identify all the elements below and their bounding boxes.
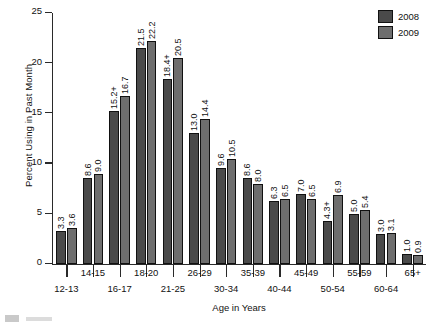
bar-value-label: 3.0: [375, 219, 385, 232]
bar-2009-60-64: 3.1: [387, 233, 397, 264]
bar-value-label: 21.5: [135, 29, 145, 47]
y-tick: 10: [45, 162, 52, 163]
bar-2008-14-15: 8.6: [83, 178, 93, 264]
bar-2009-14-15: 9.0: [94, 174, 104, 264]
bar-2009-35-39: 8.0: [253, 184, 263, 264]
x-tick: [173, 264, 174, 277]
y-tick-label: 15: [31, 106, 42, 117]
legend-swatch-2008: [378, 10, 393, 23]
bar-value-label: 7.0: [295, 179, 305, 192]
bar-value-label: 15.2+: [109, 87, 119, 110]
bar-2009-45-49: 6.5: [307, 199, 317, 264]
bar-2009-30-34: 10.5: [227, 159, 237, 264]
bar-value-label: 13.0: [189, 114, 199, 132]
y-tick-label: 5: [37, 206, 42, 217]
y-tick-label: 0: [37, 256, 42, 267]
bar-2008-55-59: 5.0: [349, 214, 359, 264]
x-axis-label-40-44: 40-44: [267, 283, 291, 294]
x-axis-label-18-20: 18-20: [134, 267, 158, 278]
bar-group: 7.06.5: [296, 13, 316, 264]
bar-group: 1.00.9: [402, 13, 422, 264]
bar-value-label: 3.1: [386, 218, 396, 231]
bar-group: 3.03.1: [376, 13, 396, 264]
bar-2008-30-34: 9.6: [216, 168, 226, 264]
bar-2008-45-49: 7.0: [296, 194, 306, 264]
bar-value-label: 14.4: [199, 100, 209, 118]
x-axis-label-12-13: 12-13: [54, 283, 78, 294]
bar-group: 18.4+20.5: [163, 13, 183, 264]
bar-2009-18-20: 22.2: [147, 41, 157, 264]
bar-group: 8.68.0: [243, 13, 263, 264]
bar-2008-16-17: 15.2+: [109, 111, 119, 264]
plot-area: 0510152025 3.33.68.69.015.2+16.721.522.2…: [52, 13, 426, 264]
x-axis-label-16-17: 16-17: [107, 283, 131, 294]
bar-value-label: 8.6: [242, 163, 252, 176]
bar-groups: 3.33.68.69.015.2+16.721.522.218.4+20.513…: [53, 13, 426, 264]
bar-2009-65+: 0.9: [413, 255, 423, 264]
x-axis-label-30-34: 30-34: [214, 283, 238, 294]
x-axis-label-21-25: 21-25: [161, 283, 185, 294]
y-tick: 15: [45, 112, 52, 113]
bar-value-label: 18.4+: [162, 54, 172, 77]
bar-2008-35-39: 8.6: [243, 178, 253, 264]
bar-value-label: 3.3: [55, 216, 65, 229]
x-axis-label-35-39: 35-39: [241, 267, 265, 278]
y-tick-label: 25: [31, 5, 42, 16]
y-tick: 25: [45, 12, 52, 13]
bar-group: 5.05.4: [349, 13, 369, 264]
x-axis-label-60-64: 60-64: [374, 283, 398, 294]
bar-group: 21.522.2: [136, 13, 156, 264]
bar-value-label: 1.0: [402, 239, 412, 252]
bar-group: 3.33.6: [56, 13, 76, 264]
bar-value-label: 20.5: [173, 39, 183, 57]
bar-group: 8.69.0: [83, 13, 103, 264]
bar-value-label: 6.3: [269, 186, 279, 199]
scan-artifact: [5, 315, 19, 322]
bar-2008-12-13: 3.3: [56, 231, 66, 264]
legend-label-2008: 2008: [398, 11, 419, 22]
x-tick: [386, 264, 387, 277]
y-tick-label: 10: [31, 156, 42, 167]
x-tick: [279, 264, 280, 277]
x-tick: [226, 264, 227, 277]
bar-2008-18-20: 21.5: [136, 48, 146, 264]
bar-value-label: 10.5: [226, 139, 236, 157]
bar-2009-50-54: 6.9: [333, 195, 343, 264]
bar-value-label: 5.0: [348, 199, 358, 212]
bar-value-label: 5.4: [359, 195, 369, 208]
bar-2009-21-25: 20.5: [173, 58, 183, 264]
bar-2009-55-59: 5.4: [360, 210, 370, 264]
legend-swatch-2009: [378, 26, 393, 39]
bar-value-label: 8.6: [82, 163, 92, 176]
legend: 2008 2009: [378, 10, 419, 42]
bar-value-label: 6.5: [306, 184, 316, 197]
y-tick-label: 20: [31, 56, 42, 67]
x-axis-label-65+: 65+: [405, 267, 421, 278]
bar-value-label: 6.5: [279, 184, 289, 197]
x-axis-label-55-59: 55-59: [347, 267, 371, 278]
bar-2009-16-17: 16.7: [120, 96, 130, 264]
legend-item-2008: 2008: [378, 10, 419, 23]
y-tick: 0: [45, 263, 52, 264]
bar-2008-50-54: 4.3+: [323, 221, 333, 264]
bar-value-label: 9.6: [215, 153, 225, 166]
bar-group: 4.3+6.9: [323, 13, 343, 264]
bar-value-label: 6.9: [333, 180, 343, 193]
bar-group: 15.2+16.7: [109, 13, 129, 264]
bar-value-label: 0.9: [413, 240, 423, 253]
legend-label-2009: 2009: [398, 27, 419, 38]
bar-2008-26-29: 13.0: [189, 133, 199, 264]
bar-value-label: 3.6: [66, 213, 76, 226]
scan-artifact-secondary: [26, 317, 52, 321]
x-axis-line: [52, 264, 426, 265]
bar-2009-12-13: 3.6: [67, 228, 77, 264]
legend-item-2009: 2009: [378, 26, 419, 39]
bar-value-label: 8.0: [253, 169, 263, 182]
bar-value-label: 16.7: [120, 77, 130, 95]
bar-group: 6.36.5: [269, 13, 289, 264]
y-tick: 20: [45, 62, 52, 63]
x-axis-label-45-49: 45-49: [294, 267, 318, 278]
x-tick: [333, 264, 334, 277]
bar-group: 13.014.4: [189, 13, 209, 264]
bar-2009-26-29: 14.4: [200, 119, 210, 264]
